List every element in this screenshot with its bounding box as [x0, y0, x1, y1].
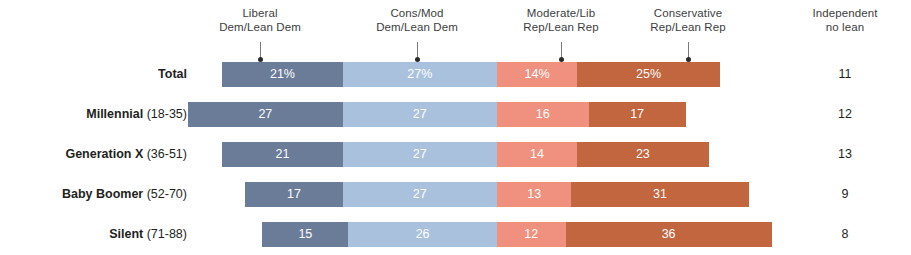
- column-header-line-1: Conservative: [608, 6, 768, 20]
- bar-row: 26151236: [0, 222, 911, 247]
- bar-row: 27271617: [0, 102, 911, 127]
- column-pointer-line-4: [688, 42, 689, 58]
- segment-cons-mod-dem: 27%: [343, 62, 497, 87]
- bar-row: 27171331: [0, 182, 911, 207]
- column-header-1: LiberalDem/Lean Dem: [180, 6, 340, 34]
- independent-no-lean-value: 12: [805, 107, 885, 121]
- segment-conservative-rep: 23: [577, 142, 709, 167]
- independent-no-lean-value: 8: [805, 227, 885, 241]
- column-header-4: ConservativeRep/Lean Rep: [608, 6, 768, 34]
- independent-no-lean-value: 11: [805, 67, 885, 81]
- column-header-line-2: Dem/Lean Dem: [337, 20, 497, 34]
- bar-row: 27211423: [0, 142, 911, 167]
- segment-conservative-rep: 31: [571, 182, 748, 207]
- column-header-line-1: Independent: [765, 6, 911, 20]
- segment-liberal-dem: 21: [222, 142, 342, 167]
- column-header-5: Independentno lean: [765, 6, 911, 34]
- segment-moderate-lib-rep: 14: [497, 142, 577, 167]
- segment-moderate-lib-rep: 14%: [497, 62, 577, 87]
- column-header-line-2: Rep/Lean Rep: [608, 20, 768, 34]
- segment-moderate-lib-rep: 16: [497, 102, 589, 127]
- column-header-line-2: no lean: [765, 20, 911, 34]
- segment-moderate-lib-rep: 13: [497, 182, 571, 207]
- segment-conservative-rep: 17: [589, 102, 686, 127]
- independent-no-lean-value: 13: [805, 147, 885, 161]
- bar-row: 27%21%14%25%: [0, 62, 911, 87]
- column-header-line-2: Dem/Lean Dem: [180, 20, 340, 34]
- segment-cons-mod-dem: 27: [343, 182, 497, 207]
- column-header-line-1: Liberal: [180, 6, 340, 20]
- segment-liberal-dem: 27: [188, 102, 342, 127]
- segment-liberal-dem: 21%: [222, 62, 342, 87]
- segment-conservative-rep: 25%: [577, 62, 720, 87]
- segment-liberal-dem: 17: [245, 182, 342, 207]
- column-pointer-line-3: [561, 42, 562, 58]
- generational-party-affiliation-chart: LiberalDem/Lean DemCons/ModDem/Lean DemM…: [0, 0, 911, 255]
- independent-no-lean-value: 9: [805, 187, 885, 201]
- column-pointer-line-1: [260, 42, 261, 58]
- segment-cons-mod-dem: 26: [348, 222, 497, 247]
- segment-conservative-rep: 36: [566, 222, 772, 247]
- column-header-2: Cons/ModDem/Lean Dem: [337, 6, 497, 34]
- column-header-line-1: Cons/Mod: [337, 6, 497, 20]
- segment-liberal-dem: 15: [262, 222, 348, 247]
- column-pointer-line-2: [417, 42, 418, 58]
- segment-moderate-lib-rep: 12: [497, 222, 566, 247]
- segment-cons-mod-dem: 27: [343, 102, 497, 127]
- segment-cons-mod-dem: 27: [343, 142, 497, 167]
